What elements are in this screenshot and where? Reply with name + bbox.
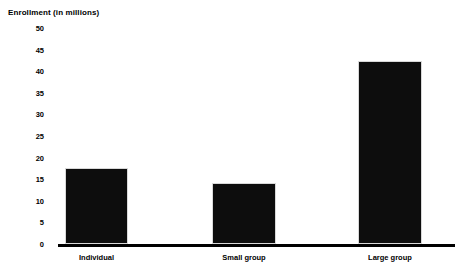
y-axis-tick-35: 35 (0, 90, 44, 98)
y-axis-tick-50: 50 (0, 25, 44, 33)
y-axis-tick-0: 0 (0, 241, 44, 249)
bar-large-group[interactable] (358, 61, 422, 244)
plot-area: 50 45 40 35 30 25 20 15 10 5 0 Individua… (0, 0, 466, 271)
bar-small-group[interactable] (212, 183, 276, 244)
y-axis-tick-5: 5 (0, 219, 44, 227)
y-axis-tick-10: 10 (0, 198, 44, 206)
y-axis-tick-40: 40 (0, 68, 44, 76)
bar-chart: Enrollment (in millions) 50 45 40 35 30 … (0, 0, 466, 271)
y-axis-tick-30: 30 (0, 111, 44, 119)
x-axis-label-large-group: Large group (340, 253, 440, 262)
x-axis-line (58, 244, 455, 247)
y-axis-tick-25: 25 (0, 133, 44, 141)
x-axis-label-small-group: Small group (194, 253, 294, 262)
x-axis-label-individual: Individual (46, 253, 147, 262)
y-axis-tick-45: 45 (0, 47, 44, 55)
bar-individual[interactable] (65, 168, 128, 244)
y-axis-tick-20: 20 (0, 155, 44, 163)
y-axis-tick-15: 15 (0, 176, 44, 184)
